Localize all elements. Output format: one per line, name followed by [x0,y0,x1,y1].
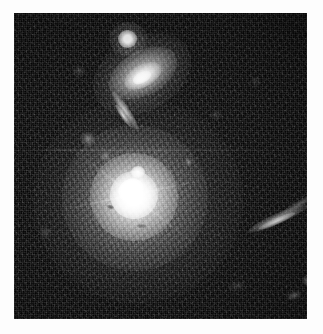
sky-background [14,13,307,319]
astronomical-image-field [14,13,307,319]
image-canvas [0,0,323,334]
